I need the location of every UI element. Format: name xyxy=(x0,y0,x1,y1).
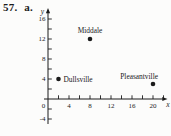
x-tick-label: 20 xyxy=(150,102,158,110)
y-tick-label: 4 xyxy=(42,75,46,83)
point-label-middale: Middale xyxy=(78,26,103,35)
x-tick-label: 16 xyxy=(129,102,137,110)
y-axis-label: y xyxy=(40,7,45,16)
origin-label: 0 xyxy=(42,102,46,110)
y-tick-label: 16 xyxy=(39,15,47,23)
y-axis-arrow xyxy=(46,8,50,13)
y-tick-label: 8 xyxy=(42,55,46,63)
textbook-figure: 57.a. 48121620161284-40xyMiddaleDullsvil… xyxy=(0,0,171,136)
x-tick-label: 4 xyxy=(67,102,71,110)
y-tick-label: -4 xyxy=(40,115,46,123)
x-axis-label: x xyxy=(165,100,170,109)
data-point-dullsville xyxy=(56,77,61,82)
x-tick-label: 8 xyxy=(88,102,92,110)
point-label-pleasantville: Pleasantville xyxy=(120,72,158,81)
data-point-pleasantville xyxy=(151,82,156,87)
x-tick-label: 12 xyxy=(108,102,116,110)
point-label-dullsville: Dullsville xyxy=(64,75,94,84)
data-point-middale xyxy=(88,37,93,42)
y-tick-label: 12 xyxy=(39,35,47,43)
scatter-plot: 48121620161284-40xyMiddaleDullsvillePlea… xyxy=(0,0,171,136)
